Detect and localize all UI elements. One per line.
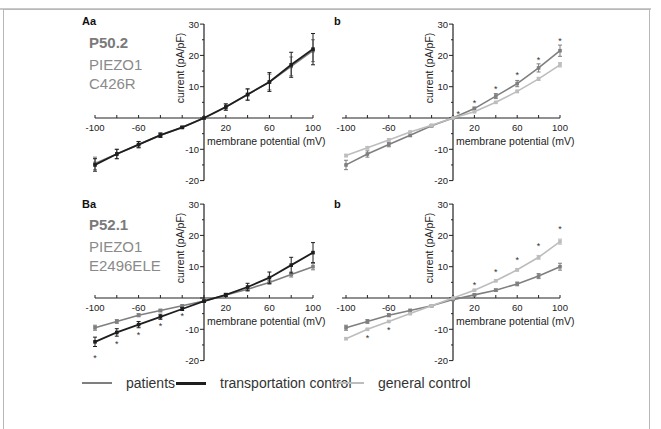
- significance-asterisk: *: [473, 280, 477, 290]
- x-tick-label: 60: [512, 302, 523, 313]
- y-tick-label: 10: [188, 261, 199, 272]
- significance-asterisk: *: [115, 339, 119, 349]
- x-tick-label: 60: [512, 122, 523, 133]
- x-tick-label: -60: [382, 302, 396, 313]
- legend-swatch-patients: [82, 382, 112, 384]
- significance-asterisk: *: [494, 84, 498, 94]
- significance-asterisk: *: [366, 333, 370, 343]
- significance-asterisk: *: [159, 321, 163, 331]
- y-tick-label: 10: [437, 261, 448, 272]
- significance-asterisk: *: [387, 325, 391, 335]
- y-tick-label: 20: [188, 50, 199, 61]
- y-tick-label: 30: [188, 199, 199, 210]
- significance-asterisk: *: [515, 70, 519, 80]
- legend-swatch-general-control: [334, 382, 364, 384]
- legend-swatch-transportation-control: [176, 382, 206, 385]
- x-tick-label: 60: [264, 122, 275, 133]
- x-tick-label: -60: [132, 122, 146, 133]
- significance-asterisk: *: [537, 241, 541, 251]
- y-tick-label: 30: [437, 199, 448, 210]
- legend-label-patients: patients: [126, 375, 175, 391]
- y-tick-label: -20: [434, 175, 448, 186]
- x-tick-label: -60: [132, 302, 146, 313]
- x-axis-title: membrane potential (mV): [207, 315, 325, 327]
- x-tick-label: 60: [264, 302, 275, 313]
- significance-asterisk: *: [558, 224, 562, 234]
- x-tick-label: 20: [469, 302, 480, 313]
- significance-asterisk: *: [558, 36, 562, 46]
- x-tick-label: 20: [221, 122, 232, 133]
- y-axis-title: current (pA/pF): [423, 33, 435, 104]
- significance-asterisk: *: [473, 98, 477, 108]
- significance-asterisk: *: [515, 255, 519, 265]
- significance-asterisk: *: [93, 353, 97, 363]
- x-tick-label: 20: [469, 122, 480, 133]
- y-tick-label: -20: [434, 355, 448, 366]
- legend: patients transportation control general …: [0, 375, 661, 395]
- significance-asterisk: *: [137, 330, 141, 340]
- y-axis-title: current (pA/pF): [174, 213, 186, 284]
- y-tick-label: 30: [437, 19, 448, 30]
- chart-panel-Bb: -100-602060100-20-10102030membrane poten…: [336, 199, 574, 367]
- chart-panel-Aa: -100-602060100-20-10102030membrane poten…: [85, 19, 325, 187]
- legend-item-general-control: general control: [334, 375, 471, 391]
- legend-item-transportation-control: transportation control: [176, 375, 352, 391]
- x-axis-title: membrane potential (mV): [207, 135, 325, 147]
- legend-item-patients: patients: [82, 375, 175, 391]
- x-tick-label: 100: [305, 302, 321, 313]
- x-tick-label: -100: [336, 122, 355, 133]
- y-tick-label: 30: [188, 19, 199, 30]
- y-tick-label: -10: [434, 144, 448, 155]
- chart-panel-Ba: -100-602060100-20-10102030membrane poten…: [85, 199, 325, 367]
- x-tick-label: 100: [305, 122, 321, 133]
- significance-asterisk: *: [180, 311, 184, 321]
- y-tick-label: 10: [437, 81, 448, 92]
- legend-label-transportation-control: transportation control: [220, 375, 352, 391]
- x-axis-title: membrane potential (mV): [456, 135, 574, 147]
- x-tick-label: -100: [336, 302, 355, 313]
- y-tick-label: -10: [185, 324, 199, 335]
- significance-asterisk: *: [494, 267, 498, 277]
- y-tick-label: 10: [188, 81, 199, 92]
- x-tick-label: 100: [552, 122, 568, 133]
- legend-label-general-control: general control: [378, 375, 471, 391]
- x-axis-title: membrane potential (mV): [456, 315, 574, 327]
- significance-asterisk: *: [537, 55, 541, 65]
- y-tick-label: -20: [185, 355, 199, 366]
- y-tick-label: 20: [437, 50, 448, 61]
- y-tick-label: -10: [185, 144, 199, 155]
- y-axis-title: current (pA/pF): [423, 213, 435, 284]
- x-tick-label: -60: [382, 122, 396, 133]
- chart-panel-Ab: -100-602060100-20-10102030membrane poten…: [336, 19, 574, 187]
- x-tick-label: 100: [552, 302, 568, 313]
- y-tick-label: 20: [188, 230, 199, 241]
- y-tick-label: -20: [185, 175, 199, 186]
- x-tick-label: 20: [221, 302, 232, 313]
- y-axis-title: current (pA/pF): [174, 33, 186, 104]
- significance-asterisk: *: [457, 109, 461, 119]
- x-tick-label: -100: [85, 122, 104, 133]
- y-tick-label: -10: [434, 324, 448, 335]
- x-tick-label: -100: [85, 302, 104, 313]
- y-tick-label: 20: [437, 230, 448, 241]
